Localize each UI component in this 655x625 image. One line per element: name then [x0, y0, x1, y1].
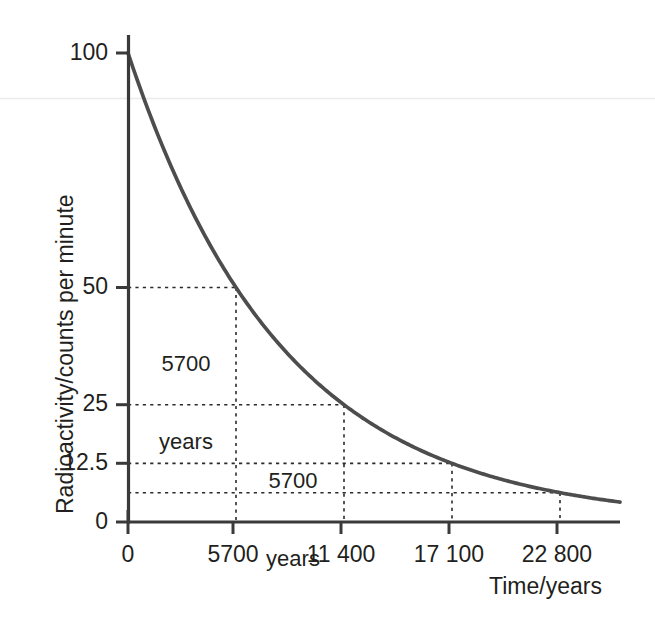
radioactive-decay-figure: 100 50 25 12.5 0 0 5700 11 400 17 100 22… — [0, 0, 655, 625]
annotation-first-half-life-unit: years — [142, 429, 230, 455]
x-tick-label-22800: 22 800 — [497, 541, 617, 568]
y-axis-ticks — [116, 53, 128, 522]
y-tick-label-100: 100 — [56, 39, 108, 66]
x-tick-label-0: 0 — [98, 541, 158, 568]
x-tick-label-17100: 17 100 — [389, 541, 509, 568]
x-axis-title: Time/years — [489, 573, 602, 600]
annotation-second-half-life: 5700 years — [249, 416, 337, 624]
y-axis-title: Radioactivity/counts per minute — [52, 194, 79, 514]
annotation-first-half-life-value: 5700 — [142, 351, 230, 377]
annotation-second-half-life-value: 5700 — [249, 468, 337, 494]
annotation-first-half-life: 5700 years — [142, 299, 230, 507]
annotation-second-half-life-unit: years — [249, 546, 337, 572]
